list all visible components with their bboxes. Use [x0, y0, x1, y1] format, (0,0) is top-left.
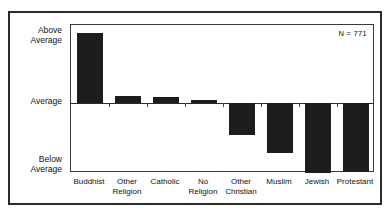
bar [115, 96, 141, 103]
x-axis-category-label: Buddhist [70, 176, 108, 204]
axis-tick [147, 103, 148, 107]
clipped-title [0, 0, 390, 9]
bar [77, 33, 103, 103]
axis-tick [261, 103, 262, 107]
x-axis-category-label: Other Religion [108, 176, 146, 204]
plot-area: N = 771 [70, 24, 374, 172]
bar [267, 103, 293, 153]
x-axis-category-label: No Religion [184, 176, 222, 204]
bar [343, 103, 369, 172]
x-axis-category-label: Muslim [260, 176, 298, 204]
y-axis-label-average: Average [4, 97, 62, 107]
axis-tick [223, 103, 224, 107]
bar [229, 103, 255, 135]
axis-tick [185, 103, 186, 107]
x-axis-category-label: Protestant [336, 176, 374, 204]
x-axis-category-label: Catholic [146, 176, 184, 204]
y-axis-label-below-average: Below Average [4, 155, 62, 174]
x-axis-category-label: Other Christian [222, 176, 260, 204]
y-axis-label-above-average: Above Average [4, 26, 62, 45]
axis-tick [109, 103, 110, 107]
figure-frame: Above Average Average Below Average N = … [8, 11, 382, 205]
bar [305, 103, 331, 173]
x-axis-labels: BuddhistOther ReligionCatholicNo Religio… [70, 176, 374, 204]
axis-tick [299, 103, 300, 107]
bar [153, 97, 179, 103]
bar [191, 100, 217, 104]
x-axis-category-label: Jewish [298, 176, 336, 204]
axis-tick [337, 103, 338, 107]
sample-size-annotation: N = 771 [338, 29, 367, 38]
